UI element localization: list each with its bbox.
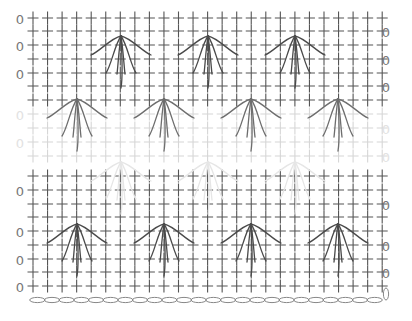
single-crochet-icon xyxy=(333,280,344,293)
single-crochet-icon xyxy=(217,211,228,224)
single-crochet-icon xyxy=(57,198,68,211)
single-crochet-icon xyxy=(28,25,39,38)
single-crochet-icon xyxy=(115,80,126,93)
single-crochet-icon xyxy=(129,53,140,66)
single-crochet-icon xyxy=(362,39,373,52)
single-crochet-icon xyxy=(362,170,373,183)
single-crochet-icon xyxy=(115,225,126,238)
single-crochet-icon xyxy=(362,67,373,80)
single-crochet-icon xyxy=(57,184,68,197)
single-crochet-icon xyxy=(348,80,359,93)
single-crochet-icon xyxy=(28,211,39,224)
single-crochet-icon xyxy=(158,239,169,252)
single-crochet-icon xyxy=(86,25,97,38)
single-crochet-icon xyxy=(42,12,53,25)
single-crochet-icon xyxy=(42,184,53,197)
single-crochet-icon xyxy=(275,211,286,224)
single-crochet-icon xyxy=(57,80,68,93)
chain-stitch-icon xyxy=(323,297,338,302)
stitch-row xyxy=(28,198,388,211)
single-crochet-icon xyxy=(377,108,388,121)
single-crochet-icon xyxy=(158,198,169,211)
single-crochet-icon xyxy=(129,80,140,93)
single-crochet-icon xyxy=(377,253,388,266)
single-crochet-icon xyxy=(217,150,228,163)
single-crochet-icon xyxy=(260,67,271,80)
single-crochet-icon xyxy=(86,150,97,163)
single-crochet-icon xyxy=(348,39,359,52)
single-crochet-icon xyxy=(100,225,111,238)
single-crochet-icon xyxy=(202,94,213,107)
single-crochet-icon xyxy=(28,39,39,52)
single-crochet-icon xyxy=(304,198,315,211)
single-crochet-icon xyxy=(202,108,213,121)
single-crochet-icon xyxy=(100,266,111,279)
single-crochet-icon xyxy=(129,266,140,279)
single-crochet-icon xyxy=(188,94,199,107)
single-crochet-icon xyxy=(129,150,140,163)
stitch-row xyxy=(28,12,388,25)
single-crochet-icon xyxy=(144,25,155,38)
single-crochet-icon xyxy=(362,266,373,279)
single-crochet-icon xyxy=(362,225,373,238)
single-crochet-icon xyxy=(260,211,271,224)
single-crochet-icon xyxy=(217,136,228,149)
single-crochet-icon xyxy=(71,53,82,66)
single-crochet-icon xyxy=(86,211,97,224)
single-crochet-icon xyxy=(362,184,373,197)
single-crochet-icon xyxy=(28,53,39,66)
chain-stitch-icon xyxy=(235,297,250,302)
single-crochet-icon xyxy=(57,253,68,266)
single-crochet-icon xyxy=(129,94,140,107)
single-crochet-icon xyxy=(188,108,199,121)
chain-stitch-icon xyxy=(308,297,323,302)
chain-stitch-icon xyxy=(367,297,382,302)
turning-chain-icon: 0 xyxy=(16,39,24,54)
single-crochet-icon xyxy=(260,184,271,197)
chain-stitch-icon xyxy=(132,297,147,302)
single-crochet-icon xyxy=(202,266,213,279)
single-crochet-icon xyxy=(57,170,68,183)
single-crochet-icon xyxy=(57,280,68,293)
single-crochet-icon xyxy=(86,136,97,149)
single-crochet-icon xyxy=(115,239,126,252)
single-crochet-icon xyxy=(86,198,97,211)
single-crochet-icon xyxy=(246,12,257,25)
single-crochet-icon xyxy=(144,150,155,163)
single-crochet-icon xyxy=(173,80,184,93)
chain-stitch-icon xyxy=(30,297,45,302)
single-crochet-icon xyxy=(377,67,388,80)
turning-chain-icon: 0 xyxy=(382,239,390,254)
single-crochet-icon xyxy=(348,211,359,224)
single-crochet-icon xyxy=(71,25,82,38)
stitch-row xyxy=(28,266,388,279)
single-crochet-icon xyxy=(289,12,300,25)
turning-chain-icon: 0 xyxy=(16,225,24,240)
turning-chain-icon: 0 xyxy=(382,53,390,68)
single-crochet-icon xyxy=(188,122,199,135)
single-crochet-icon xyxy=(115,136,126,149)
single-crochet-icon xyxy=(333,184,344,197)
single-crochet-icon xyxy=(144,67,155,80)
single-crochet-icon xyxy=(362,253,373,266)
single-crochet-icon xyxy=(304,39,315,52)
single-crochet-icon xyxy=(348,266,359,279)
single-crochet-icon xyxy=(348,108,359,121)
single-crochet-icon xyxy=(304,122,315,135)
stitch-row xyxy=(28,150,388,163)
single-crochet-icon xyxy=(231,266,242,279)
single-crochet-icon xyxy=(246,211,257,224)
turning-chain-icon: 0 xyxy=(382,25,390,40)
single-crochet-icon xyxy=(129,211,140,224)
chain-stitch-icon xyxy=(176,297,191,302)
single-crochet-icon xyxy=(231,150,242,163)
single-crochet-icon xyxy=(173,280,184,293)
single-crochet-icon xyxy=(231,184,242,197)
chain-stitch-icon xyxy=(103,297,118,302)
single-crochet-icon xyxy=(348,198,359,211)
single-crochet-icon xyxy=(260,12,271,25)
single-crochet-icon xyxy=(158,80,169,93)
single-crochet-icon xyxy=(115,108,126,121)
single-crochet-icon xyxy=(188,211,199,224)
stitch-row xyxy=(28,122,388,135)
